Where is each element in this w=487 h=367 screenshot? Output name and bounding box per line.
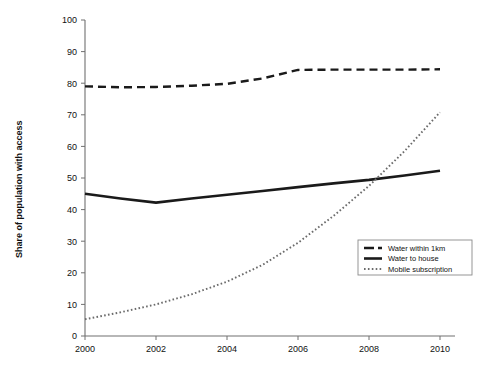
legend-label-2: Mobile subscription	[388, 265, 452, 274]
x-tick-label: 2006	[288, 344, 308, 354]
y-tick-label: 40	[67, 205, 77, 215]
x-tick-label: 2000	[75, 344, 95, 354]
chart-container: Share of population with access 01020304…	[0, 0, 487, 367]
line-chart: Share of population with access 01020304…	[0, 0, 487, 367]
y-tick-label: 30	[67, 237, 77, 247]
y-tick-label: 100	[62, 15, 77, 25]
y-axis-title-text: Share of population with access	[14, 120, 24, 258]
chart-legend: Water within 1kmWater to houseMobile sub…	[358, 240, 472, 275]
y-tick-label: 50	[67, 173, 77, 183]
y-tick-label: 60	[67, 142, 77, 152]
y-axis-title: Share of population with access	[14, 120, 24, 258]
legend-label-0: Water within 1km	[388, 244, 445, 253]
x-tick-label: 2008	[359, 344, 379, 354]
x-tick-label: 2004	[217, 344, 237, 354]
y-tick-label: 20	[67, 268, 77, 278]
y-tick-label: 80	[67, 79, 77, 89]
legend-label-1: Water to house	[388, 254, 439, 263]
y-tick-label: 0	[72, 331, 77, 341]
x-tick-label: 2010	[430, 344, 450, 354]
y-tick-label: 70	[67, 110, 77, 120]
y-tick-label: 90	[67, 47, 77, 57]
x-tick-label: 2002	[146, 344, 166, 354]
y-tick-label: 10	[67, 300, 77, 310]
